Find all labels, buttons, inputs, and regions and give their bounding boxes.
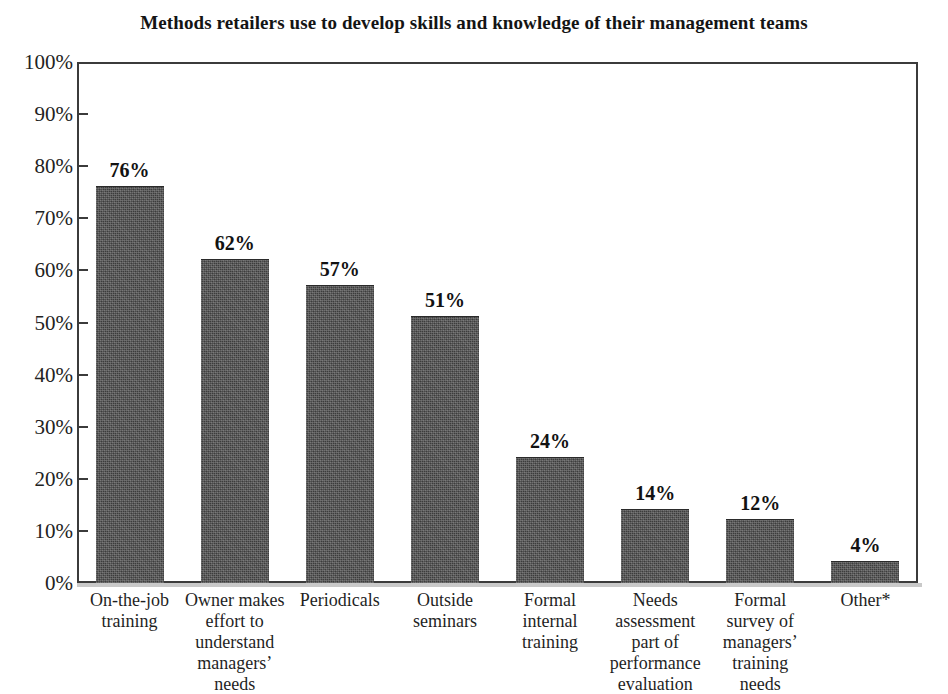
bar[interactable] <box>306 285 374 583</box>
x-axis-category-line: Periodicals <box>287 590 392 611</box>
y-axis-tick-label: 90% <box>3 102 73 127</box>
bar-slot: 76% <box>77 62 182 583</box>
y-axis-tick-label: 70% <box>3 206 73 231</box>
x-axis-category-line: assessment <box>603 611 708 632</box>
x-axis-category-line: Formal <box>498 590 603 611</box>
bar-slot: 4% <box>813 62 918 583</box>
bar-slot: 57% <box>287 62 392 583</box>
bar-value-label: 12% <box>740 492 780 515</box>
bar[interactable] <box>516 457 584 583</box>
x-axis-category-label: Needsassessmentpart ofperformanceevaluat… <box>603 590 708 694</box>
x-axis-category-label: On-the-jobtraining <box>77 590 182 632</box>
bar-slot: 51% <box>392 62 497 583</box>
x-axis-category-line: performance <box>603 653 708 674</box>
bar[interactable] <box>831 561 899 583</box>
bar-value-label: 57% <box>320 258 360 281</box>
bar[interactable] <box>726 519 794 583</box>
y-axis-tick-label: 40% <box>3 362 73 387</box>
y-axis-tick-label: 10% <box>3 518 73 543</box>
x-axis-category-line: needs <box>182 674 287 694</box>
x-axis-category-line: evaluation <box>603 674 708 694</box>
bar-value-label: 14% <box>635 482 675 505</box>
x-axis-category-label: Periodicals <box>287 590 392 611</box>
x-axis-category-line: Needs <box>603 590 708 611</box>
y-axis-tick-label: 60% <box>3 258 73 283</box>
x-axis-category-line: internal <box>498 611 603 632</box>
bar[interactable] <box>621 509 689 583</box>
x-axis-category-line: On-the-job <box>77 590 182 611</box>
x-axis-category-line: training <box>708 653 813 674</box>
y-axis-tick-label: 50% <box>3 310 73 335</box>
y-axis-tick-label: 30% <box>3 414 73 439</box>
y-axis-tick-label: 80% <box>3 154 73 179</box>
bar-slot: 24% <box>498 62 603 583</box>
x-axis-category-line: Owner makes <box>182 590 287 611</box>
x-axis-category-line: part of <box>603 632 708 653</box>
bar-value-label: 62% <box>215 232 255 255</box>
bar-slot: 62% <box>182 62 287 583</box>
x-axis-category-label: Formalinternaltraining <box>498 590 603 653</box>
bar-slot: 12% <box>708 62 813 583</box>
x-axis-category-label: Outsideseminars <box>392 590 497 632</box>
x-axis-category-label: Owner makeseffort tounderstandmanagers’n… <box>182 590 287 694</box>
x-axis-labels: On-the-jobtrainingOwner makeseffort toun… <box>77 590 918 683</box>
x-axis-category-line: Formal <box>708 590 813 611</box>
x-axis-category-line: understand <box>182 632 287 653</box>
x-axis-category-line: survey of <box>708 611 813 632</box>
y-axis-tick-label: 0% <box>3 571 73 596</box>
x-axis-category-line: managers’ <box>708 632 813 653</box>
axis-baseline-shadow <box>77 583 922 587</box>
x-axis-category-line: effort to <box>182 611 287 632</box>
x-axis-category-line: Outside <box>392 590 497 611</box>
x-axis-category-line: seminars <box>392 611 497 632</box>
x-axis-category-line: needs <box>708 674 813 694</box>
x-axis-category-line: managers’ <box>182 653 287 674</box>
bar-value-label: 4% <box>850 534 880 557</box>
bar-value-label: 51% <box>425 289 465 312</box>
y-axis-tick-label: 100% <box>3 50 73 75</box>
bar[interactable] <box>96 186 164 583</box>
y-axis-tick-label: 20% <box>3 466 73 491</box>
x-axis-category-line: Other* <box>813 590 918 611</box>
x-axis-category-label: Other* <box>813 590 918 611</box>
bar[interactable] <box>201 259 269 583</box>
bar[interactable] <box>411 316 479 583</box>
x-axis-category-label: Formalsurvey ofmanagers’trainingneeds <box>708 590 813 694</box>
bar-slot: 14% <box>603 62 708 583</box>
x-axis-category-line: training <box>77 611 182 632</box>
bars-layer: 76%62%57%51%24%14%12%4% <box>77 62 918 583</box>
bar-value-label: 76% <box>110 159 150 182</box>
chart-title: Methods retailers use to develop skills … <box>0 12 948 34</box>
bar-value-label: 24% <box>530 430 570 453</box>
x-axis-category-line: training <box>498 632 603 653</box>
